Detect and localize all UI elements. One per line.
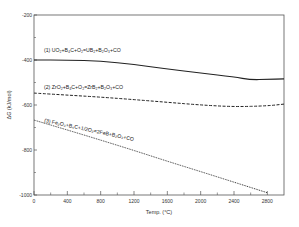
x-tick-label: 400 [63,198,72,204]
x-tick-label: 0 [33,198,36,204]
series-1-label: (1) UO₂+B₄C+O₂=UB₂+B₂O₃+CO [44,47,121,53]
x-tick-label: 2000 [195,198,206,204]
x-axis-title: Temp. (°C) [146,209,173,215]
y-tick-label: -400 [22,57,32,63]
y-axis-title: ΔG (kJ/mol) [6,90,12,119]
x-tick-label: 800 [96,198,105,204]
y-tick-label: -800 [22,147,32,153]
x-tick-label: 2800 [262,198,273,204]
chart: 040080012001600200024002800 -200-400-600… [0,0,299,227]
series-3-label: (3) Fe₂O₃+B₄C+1/2O₂=2FeB+B₂O₃+CO [44,117,135,142]
plot-frame [34,15,284,195]
y-tick-label: -600 [22,102,32,108]
x-tick-label: 2400 [228,198,239,204]
series-1-line [34,60,284,80]
series-2-line [34,93,284,106]
x-tick-label: 1600 [162,198,173,204]
x-tick-label: 1200 [128,198,139,204]
y-tick-label: -1000 [19,192,32,198]
series-2-label: (2) ZrO₂+B₄C+O₂=ZrB₂+B₂O₃+CO [44,84,123,90]
y-tick-label: -200 [22,12,32,18]
series-3-line [34,120,267,193]
x-axis: 040080012001600200024002800 [33,191,274,204]
